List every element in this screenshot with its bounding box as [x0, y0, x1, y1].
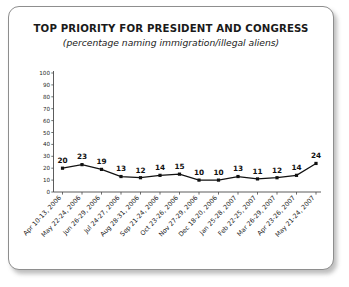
data-point-label: 23 [77, 152, 87, 161]
data-point-label: 13 [116, 164, 126, 173]
y-axis-tick-label: 60 [43, 118, 51, 124]
data-point-labels: 2023191312141510101311121424 [57, 151, 321, 177]
data-point-marker [295, 174, 298, 177]
data-point-marker [275, 176, 278, 179]
data-point-label: 12 [135, 166, 145, 175]
data-point-marker [236, 175, 239, 178]
data-point-marker [178, 173, 181, 176]
chart-card: TOP PRIORITY FOR PRESIDENT AND CONGRESS … [8, 6, 334, 270]
data-point-marker [314, 162, 317, 165]
y-axis-tick-label: 10 [43, 177, 51, 183]
data-point-label: 12 [272, 166, 282, 175]
data-point-marker [139, 176, 142, 179]
chart-svg: 1009080706050403020100 20231913121415101… [9, 7, 335, 271]
x-axis-tick-labels: Apr 10-13, 2006May 22-24, 2006Jun 26-29,… [22, 194, 317, 239]
data-point-label: 10 [194, 168, 204, 177]
y-axis-tick-label: 70 [43, 106, 51, 112]
data-point-label: 20 [57, 156, 67, 165]
data-point-label: 13 [233, 164, 243, 173]
data-point-label: 14 [291, 163, 301, 172]
y-axis-tick-label: 100 [39, 70, 50, 76]
data-point-marker [217, 179, 220, 182]
data-point-marker [158, 174, 161, 177]
data-point-marker [80, 163, 83, 166]
data-point-label: 15 [174, 162, 184, 171]
data-point-label: 24 [311, 151, 321, 160]
y-axis-tick-label: 30 [43, 153, 51, 159]
data-point-label: 19 [96, 157, 106, 166]
data-point-marker [119, 175, 122, 178]
y-axis-tick-label: 20 [43, 165, 51, 171]
y-axis-tick-label: 80 [43, 94, 51, 100]
y-axis-tick-label: 90 [43, 82, 51, 88]
data-point-label: 10 [213, 168, 223, 177]
y-axis-tick-labels: 1009080706050403020100 [39, 70, 50, 195]
y-axis-tick-label: 50 [43, 130, 51, 136]
data-point-marker [197, 179, 200, 182]
line-chart-plot: 1009080706050403020100 20231913121415101… [9, 7, 335, 271]
data-point-label: 14 [155, 163, 165, 172]
y-axis-tick-label: 0 [46, 189, 50, 195]
data-point-label: 11 [252, 167, 262, 176]
y-axis-tick-label: 40 [43, 141, 51, 147]
data-point-marker [100, 168, 103, 171]
data-point-marker [256, 177, 259, 180]
data-point-marker [61, 167, 64, 170]
